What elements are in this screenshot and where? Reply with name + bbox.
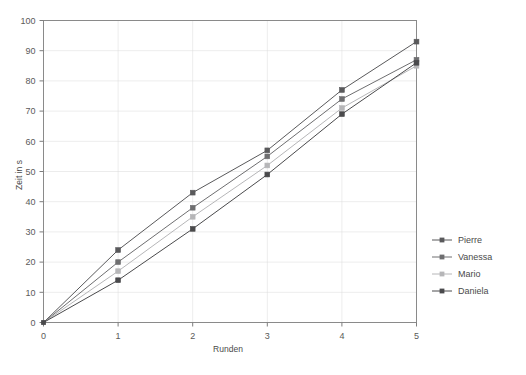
x-axis-tick-label: 0: [41, 331, 46, 341]
y-axis-tick-label: 40: [25, 197, 35, 207]
legend-marker-swatch: [440, 255, 445, 260]
x-axis-tick-label: 5: [414, 331, 419, 341]
x-axis-tick-label: 2: [190, 331, 195, 341]
data-point-marker: [340, 97, 345, 102]
y-axis-tick-label: 90: [25, 46, 35, 56]
data-point-marker: [265, 172, 270, 177]
data-point-marker: [190, 214, 195, 219]
data-point-marker: [116, 260, 121, 265]
y-axis-tick-label: 60: [25, 137, 35, 147]
y-axis-tick-label: 0: [30, 318, 35, 328]
data-point-marker: [414, 60, 419, 65]
chart-canvas: 0102030405060708090100 012345 PierreVane…: [0, 0, 526, 375]
data-point-marker: [340, 106, 345, 111]
line-chart: 0102030405060708090100 012345 PierreVane…: [0, 0, 526, 375]
legend-marker-swatch: [440, 289, 445, 294]
y-axis-tick-label: 30: [25, 227, 35, 237]
data-point-marker: [190, 205, 195, 210]
legend-marker-swatch: [440, 238, 445, 243]
data-point-marker: [116, 248, 121, 253]
data-point-marker: [265, 154, 270, 159]
y-axis-tick-label: 80: [25, 76, 35, 86]
data-point-marker: [265, 148, 270, 153]
y-axis-tick-label: 50: [25, 167, 35, 177]
x-axis-title: Runden: [213, 344, 243, 354]
y-axis-tick-label: 20: [25, 257, 35, 267]
data-point-marker: [340, 88, 345, 93]
x-axis-tick-label: 1: [116, 331, 121, 341]
x-axis-tick-label: 3: [265, 331, 270, 341]
y-axis-tick-label: 70: [25, 106, 35, 116]
x-axis-tick-label: 4: [339, 331, 344, 341]
legend-label: Mario: [458, 269, 481, 279]
data-point-marker-origin: [41, 320, 46, 325]
data-point-marker: [265, 163, 270, 168]
legend-label: Daniela: [458, 286, 489, 296]
y-axis-title: Zeit in s: [14, 160, 24, 190]
legend-label: Pierre: [458, 235, 482, 245]
chart-background: [0, 0, 526, 375]
data-point-marker: [414, 39, 419, 44]
data-point-marker: [116, 278, 121, 283]
y-axis-tick-label: 10: [25, 288, 35, 298]
data-point-marker: [190, 226, 195, 231]
data-point-marker: [190, 190, 195, 195]
legend-marker-swatch: [440, 272, 445, 277]
legend-label: Vanessa: [458, 252, 492, 262]
data-point-marker: [340, 112, 345, 117]
y-axis-tick-label: 100: [20, 16, 35, 26]
data-point-marker: [116, 269, 121, 274]
